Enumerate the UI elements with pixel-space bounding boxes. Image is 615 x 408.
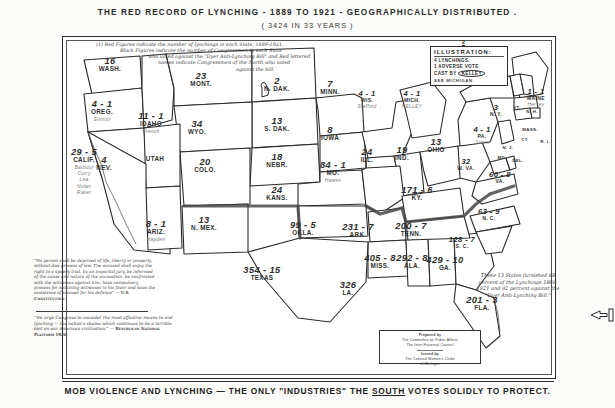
- thirteen-states-note: These 13 States furnished 88 percent of …: [474, 272, 562, 298]
- state-congressmen: Hawes: [311, 177, 355, 183]
- state-label-iowa: 8IOWA: [308, 126, 352, 142]
- state-abbr: IOWA: [308, 135, 352, 141]
- state-label-ri: R. I.: [523, 140, 567, 144]
- state-abbr: N. DAK.: [255, 86, 299, 92]
- state-abbr: WYO.: [175, 129, 219, 135]
- state-abbr: S. DAK.: [255, 126, 299, 132]
- state-congressmen: BarbourCurryLeaNolanRaker: [62, 164, 106, 195]
- constitution-quote: "No person shall be deprived of life, li…: [34, 258, 156, 301]
- state-label-tenn: 200 - 7TENN.: [389, 222, 433, 238]
- state-abbr: FLA.: [460, 305, 504, 311]
- state-label-nmex: 13N. MEX.: [182, 216, 226, 232]
- legend-note: (1) Red Figures indicate the number of l…: [86, 41, 386, 72]
- illustration-adverse-vote: 1 ADVERSE VOTE: [434, 64, 504, 69]
- state-label-ga: 429 - 10GA.: [423, 256, 467, 272]
- bottom-caption-pre: MOB VIOLENCE AND LYNCHING — THE ONLY "IN…: [64, 386, 371, 396]
- state-abbr: VA.: [478, 179, 522, 184]
- state-label-ndak: 2N. DAK.: [255, 77, 299, 93]
- state-label-wis: 4 - 1WIS.Stafford: [345, 90, 389, 109]
- state-abbr: COLO.: [183, 167, 227, 173]
- state-abbr: KY.: [395, 195, 439, 201]
- credit-box: Prepared by The Committee on Public Affa…: [379, 330, 481, 364]
- state-congressmen: French: [129, 128, 173, 134]
- state-abbr: LA.: [326, 290, 370, 296]
- state-label-calif: 29 - 5CALIF.BarbourCurryLeaNolanRaker: [62, 148, 106, 195]
- state-label-nebr: 18NEBR.: [255, 153, 299, 169]
- illustration-header: ILLUSTRATION:: [434, 49, 504, 57]
- state-label-oreg: 4 - 1OREG.Sinnott: [80, 100, 124, 122]
- state-label-va: 60 - 8VA.: [478, 171, 522, 184]
- state-abbr: IND.: [380, 155, 424, 161]
- illustration-box: ILLUSTRATION: 4 LYNCHINGS. 1 ADVERSE VOT…: [430, 46, 508, 86]
- state-congressmen: Stafford: [345, 103, 389, 109]
- state-label-wyo: 34WYO.: [175, 120, 219, 136]
- state-label-la: 326LA.: [326, 281, 370, 297]
- state-abbr: N. MEX.: [182, 225, 226, 231]
- map-poster: THE RED RECORD OF LYNCHING - 1889 TO 192…: [0, 0, 615, 408]
- bottom-caption-post: VOTES SOLIDLY TO PROTECT.: [405, 386, 550, 396]
- page-title: THE RED RECORD OF LYNCHING - 1889 TO 192…: [0, 8, 615, 17]
- illustration-see-michigan: SEE MICHIGAN: [434, 78, 504, 83]
- state-abbr: TEXAS: [240, 275, 284, 281]
- state-abbr: N. J.: [486, 146, 530, 150]
- state-label-ariz: 8 - 1ARIZ.Hayden: [134, 220, 178, 242]
- state-congressmen: Sinnott: [80, 116, 124, 122]
- state-label-fla: 201 - 3FLA.: [460, 296, 504, 312]
- state-abbr: N. C.: [467, 216, 511, 221]
- illustration-lynchings: 4 LYNCHINGS.: [434, 58, 504, 63]
- pointing-hand-icon: [590, 308, 615, 322]
- state-label-texas: 354 - 15TEXAS: [240, 266, 284, 282]
- state-abbr: OKLA.: [281, 230, 325, 236]
- state-label-okla: 99 - 5OKLA.: [281, 221, 325, 237]
- credit-council: The Inter-Fraternal Council: [380, 343, 480, 348]
- state-congressmen: Hayden: [134, 236, 178, 242]
- state-abbr: R. I.: [523, 140, 567, 144]
- state-label-nc: 63 - 9N. C.: [467, 208, 511, 221]
- state-label-ark: 231 - 7ARK.: [336, 223, 380, 239]
- illustration-marker: 2: [462, 39, 465, 45]
- state-abbr: TENN.: [389, 231, 433, 237]
- quote-divider: [36, 311, 148, 312]
- state-abbr: NEBR.: [255, 162, 299, 168]
- state-label-idaho: 11 - 1IDAHOFrench: [129, 112, 173, 134]
- state-label-kans: 24KANS.: [255, 186, 299, 202]
- state-abbr: OHIO: [414, 147, 458, 153]
- state-label-nj: N. J.: [486, 146, 530, 150]
- state-abbr: MONT.: [179, 81, 223, 87]
- illustration-cast-by: CAST BY KELLEY: [434, 70, 504, 77]
- state-label-md: MD.: [480, 156, 524, 160]
- state-abbr: N. H.: [510, 110, 554, 114]
- state-abbr: KANS.: [255, 195, 299, 201]
- constitution-quote-text: "No person shall be deprived of life, li…: [34, 258, 155, 295]
- credit-separator: [417, 350, 443, 351]
- state-label-pa: 4 - 1PA.Jones: [460, 126, 504, 145]
- state-label-sdak: 13S. DAK.: [255, 117, 299, 133]
- state-label-utah: UTAH: [133, 156, 177, 162]
- legend-line-5: against the bill.: [86, 66, 386, 72]
- state-label-mont: 23MONT.: [179, 72, 223, 88]
- state-label-ohio: 13OHIO: [414, 138, 458, 154]
- bottom-caption: MOB VIOLENCE AND LYNCHING — THE ONLY "IN…: [0, 386, 615, 396]
- state-label-sc: 128 - 7S. C.: [440, 236, 484, 249]
- credit-state: of Michigan: [380, 362, 480, 367]
- state-label-colo: 20COLO.: [183, 158, 227, 174]
- bottom-caption-south: SOUTH: [372, 386, 405, 396]
- state-abbr: ARK.: [336, 232, 380, 238]
- state-shape-co: [180, 148, 250, 206]
- illustration-name-kelley: KELLEY: [458, 70, 485, 77]
- state-congressmen: KELLEY: [390, 103, 434, 109]
- state-label-mich: 4 - 1MICH.KELLEY: [390, 90, 434, 109]
- illustration-cast-label: CAST BY: [434, 71, 457, 76]
- state-abbr: S. C.: [440, 244, 484, 249]
- state-abbr: UTAH: [133, 156, 177, 162]
- state-label-ky: 171 - 6KY.: [395, 186, 439, 202]
- state-abbr: GA.: [423, 265, 467, 271]
- bottom-rule: [62, 381, 554, 382]
- state-label-mo: 84 - 1MO.Hawes: [311, 161, 355, 183]
- state-congressmen: Jones: [460, 139, 504, 145]
- state-label-nh: N. H.: [510, 110, 554, 114]
- platform-quote: "We urge Congress to consider the most e…: [34, 315, 174, 337]
- page-subtitle: ( 3424 IN 33 YEARS ): [0, 21, 615, 30]
- state-abbr: MD.: [480, 156, 524, 160]
- state-label-mass: MASS.: [508, 128, 552, 132]
